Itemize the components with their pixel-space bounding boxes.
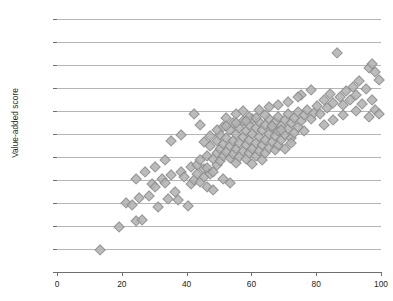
data-point-marker [331, 48, 343, 60]
data-point-marker [94, 244, 106, 256]
data-point-marker [208, 184, 220, 196]
x-axis-tick-label: 40 [167, 279, 207, 289]
gridline [57, 65, 381, 66]
data-point-marker [195, 119, 207, 131]
x-axis-tick-label: 0 [37, 279, 77, 289]
y-axis-title: Value-added score [10, 53, 20, 193]
data-point-marker [130, 173, 142, 185]
cropped-title-remnant [40, 0, 340, 9]
x-axis-tick-mark [381, 272, 382, 276]
x-axis-tick-label: 20 [102, 279, 142, 289]
gridline [57, 42, 381, 43]
data-point-marker [166, 135, 178, 147]
x-axis-tick-label: 80 [296, 279, 336, 289]
gridline [57, 203, 381, 204]
data-point-marker [114, 221, 126, 233]
data-point-marker [298, 126, 310, 138]
data-point-marker [149, 161, 161, 173]
data-point-marker [143, 190, 155, 202]
gridline [57, 19, 381, 20]
x-axis-line [57, 272, 381, 273]
scatter-chart-figure: Value-added score 8809009209409609801,00… [0, 0, 393, 301]
gridline [57, 88, 381, 89]
gridline [57, 226, 381, 227]
data-point-marker [360, 83, 372, 95]
gridline [57, 111, 381, 112]
x-axis-tick-label: 100 [361, 279, 393, 289]
plot-area [57, 19, 381, 272]
x-axis-tick-label: 60 [231, 279, 271, 289]
data-point-marker [175, 129, 187, 141]
